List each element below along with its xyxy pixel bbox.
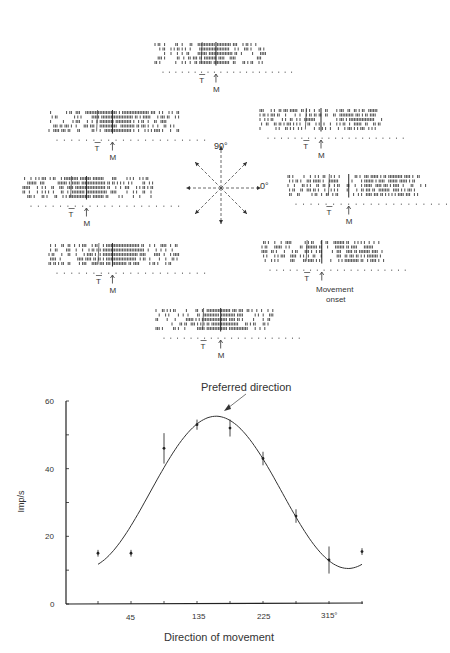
movement-onset-arrow-icon (319, 140, 323, 149)
raster-bottom-270deg: TM (156, 308, 299, 360)
y-tick-40: 40 (45, 466, 54, 474)
movement-onset-arrow-icon (110, 275, 114, 284)
target-marker-label: T (199, 76, 204, 85)
movement-onset-arrow-icon (214, 74, 218, 83)
data-point (97, 552, 100, 555)
direction-compass (186, 146, 261, 224)
raster-upper-right-45deg: TM (260, 108, 403, 160)
x-axis-label: Direction of movement (164, 631, 274, 643)
y-tick-20: 20 (45, 533, 54, 541)
target-marker-label: T (69, 210, 74, 219)
data-point (328, 559, 331, 562)
target-marker-label: T (96, 277, 101, 286)
compass-0-label: 0° (260, 182, 269, 191)
movement-onset-arrow-icon (219, 340, 223, 349)
x-axis (66, 603, 363, 604)
raster-left-180deg: TM (23, 176, 179, 228)
data-point (262, 457, 265, 460)
compass-arrowhead-icon (219, 220, 223, 224)
target-marker-label: T (95, 144, 100, 153)
movement-onset-arrow-icon (110, 142, 114, 151)
movement-marker-label: M (109, 153, 116, 162)
movement-marker-label: M (218, 351, 225, 360)
data-point (361, 550, 364, 553)
x-tick-45: 45 (126, 614, 135, 622)
movement-marker-label: M (346, 217, 353, 226)
movement-onset-arrow-icon (84, 208, 88, 217)
x-tick-135: 135 (192, 613, 205, 621)
figure-canvas: TMTMTMTMTMTMTMT (0, 0, 450, 653)
data-point (229, 427, 232, 430)
movement-marker-label: M (83, 219, 90, 228)
y-tick-60: 60 (45, 398, 54, 406)
movement-onset-arrow-icon (347, 206, 351, 215)
data-point (163, 447, 166, 450)
raster-lower-left-225deg: TM (49, 243, 205, 295)
raster-right-0deg: TM (288, 174, 446, 226)
movement-marker-label: M (213, 85, 220, 94)
preferred-direction-annotation: Preferred direction (201, 381, 292, 393)
movement-marker-label: M (318, 151, 325, 160)
data-point (196, 423, 199, 426)
x-tick-225: 225 (257, 613, 270, 621)
raster-upper-left-135deg: TM (49, 110, 205, 162)
compass-90-label: 90° (214, 142, 228, 151)
raster-lower-right-315deg: T (262, 240, 405, 283)
target-marker-label: T (303, 142, 308, 151)
x-tick-315: 315° (321, 612, 338, 620)
movement-onset-label-2: onset (326, 296, 346, 304)
movement-marker-label: M (109, 286, 116, 295)
target-marker-label: T (304, 274, 309, 283)
target-marker-label: T (326, 208, 331, 217)
y-tick-0: 0 (50, 601, 54, 609)
movement-onset-label: Movement (316, 286, 353, 294)
data-point (130, 552, 133, 555)
y-axis-label: Imp/s (17, 490, 26, 512)
target-marker-label: T (201, 342, 206, 351)
compass-arrowhead-icon (186, 186, 190, 190)
preferred-direction-arrow (228, 394, 246, 408)
cosine-fit-curve (98, 416, 362, 568)
arrowhead-icon (224, 404, 231, 411)
raster-top-90deg: TM (155, 42, 292, 94)
data-point (295, 515, 298, 518)
movement-onset-arrow-icon (320, 272, 324, 281)
